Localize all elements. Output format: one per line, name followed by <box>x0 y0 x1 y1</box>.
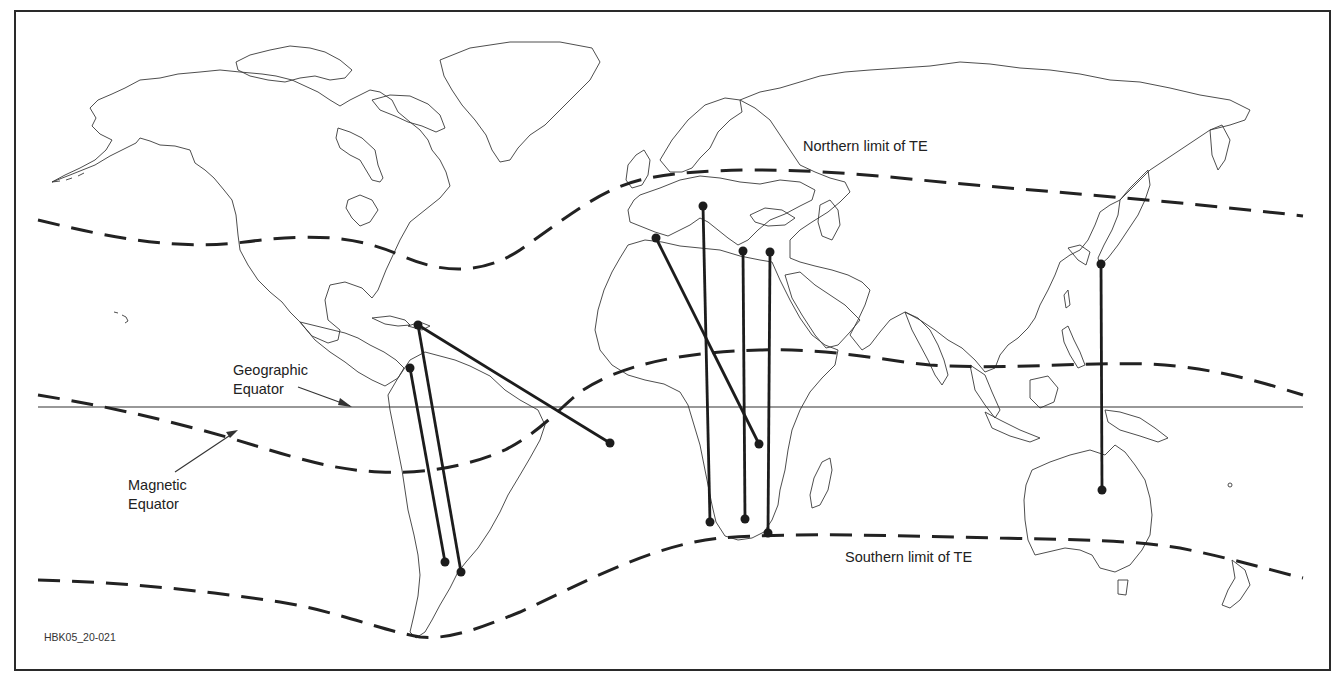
magnetic-equator-label-line1: Magnetic <box>128 476 187 495</box>
greenland <box>440 42 600 162</box>
baffin-island <box>372 95 445 132</box>
propagation-paths <box>406 202 1107 577</box>
path-caribbean-atlantic <box>414 321 615 448</box>
caspian-sea <box>818 200 840 240</box>
geographic-equator-label-line1: Geographic <box>233 361 308 380</box>
arctic-islands <box>236 46 352 82</box>
path-greece-south-africa <box>739 247 750 524</box>
magnetic-equator-label: Magnetic Equator <box>128 476 187 514</box>
north-america-coast <box>52 70 450 343</box>
magnetic-equator-pointer <box>175 430 238 472</box>
path-endpoint-dot <box>741 515 750 524</box>
borneo <box>1030 376 1058 408</box>
path-endpoint-dot <box>606 439 615 448</box>
northern-limit-label: Northern limit of TE <box>803 137 928 156</box>
cuba <box>372 316 410 326</box>
asia-north <box>740 62 1250 372</box>
philippines <box>1062 326 1085 368</box>
scandinavia <box>660 98 742 172</box>
southern-limit-label: Southern limit of TE <box>845 548 972 567</box>
path-endpoint-dot <box>1098 486 1107 495</box>
australia <box>1024 445 1152 572</box>
india <box>905 312 948 385</box>
southeast-asia <box>970 365 1000 418</box>
hudson-bay <box>336 128 383 182</box>
central-america <box>300 322 404 386</box>
africa <box>595 240 838 540</box>
path-endpoint-dot <box>457 568 466 577</box>
path-endpoint-dot <box>699 202 708 211</box>
path-cyprus-south-africa <box>764 248 775 538</box>
korea <box>1068 245 1090 265</box>
magnetic-equator-label-line2: Equator <box>128 495 187 514</box>
coastlines <box>52 42 1250 638</box>
path-endpoint-dot <box>1097 260 1106 269</box>
new-guinea <box>1105 410 1168 442</box>
aleutian-islands <box>52 173 84 182</box>
world-map <box>0 0 1344 677</box>
geographic-equator-label-line2: Equator <box>233 380 308 399</box>
madagascar <box>810 458 832 508</box>
great-lakes <box>346 195 378 226</box>
path-endpoint-dot <box>755 440 764 449</box>
japan <box>1098 170 1150 265</box>
black-sea <box>750 208 795 226</box>
southern-limit-line <box>38 535 1303 638</box>
south-america <box>388 352 545 638</box>
path-endpoint-dot <box>652 234 661 243</box>
figure-code: HBK05_20-021 <box>44 631 116 643</box>
sumatra-java <box>985 412 1040 442</box>
path-endpoint-dot <box>406 364 415 373</box>
path-endpoint-dot <box>706 518 715 527</box>
hawaii-islands <box>114 312 128 323</box>
geographic-equator-label: Geographic Equator <box>233 361 308 399</box>
pacific-island <box>1228 483 1232 487</box>
kamchatka <box>1210 125 1230 170</box>
new-zealand <box>1222 560 1250 608</box>
path-endpoint-dot <box>766 248 775 257</box>
tasmania <box>1118 580 1128 595</box>
path-japan-australia <box>1097 260 1107 495</box>
path-endpoint-dot <box>441 558 450 567</box>
arabian-peninsula <box>785 272 860 348</box>
path-endpoint-dot <box>764 529 773 538</box>
taiwan <box>1064 290 1070 308</box>
northern-limit-line <box>38 170 1303 269</box>
path-endpoint-dot <box>739 247 748 256</box>
